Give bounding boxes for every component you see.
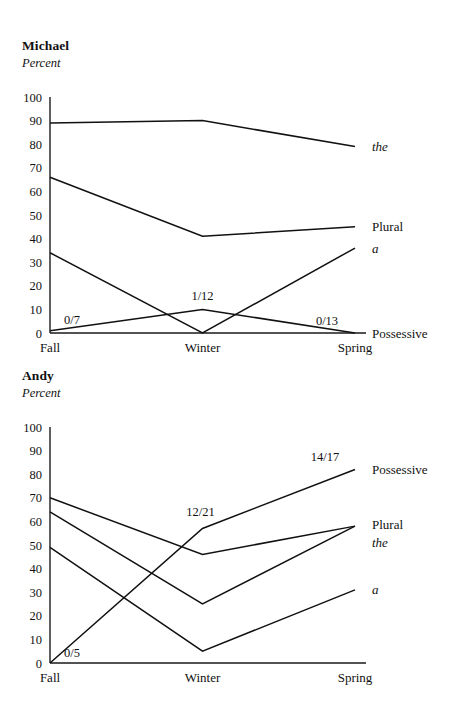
panel-subtitle-andy: Percent [22, 386, 60, 401]
point-annotation: 0/13 [316, 314, 338, 328]
series-label-the: the [372, 535, 388, 550]
point-annotation: 0/5 [64, 646, 80, 660]
y-tick-label: 80 [30, 468, 43, 482]
series-label-the: the [372, 139, 388, 154]
series-line-possessive [50, 469, 355, 663]
y-tick-label: 10 [30, 633, 43, 647]
y-tick-label: 80 [30, 138, 43, 152]
panel-subtitle-michael: Percent [22, 56, 60, 71]
series-label-plural: Plural [372, 219, 403, 234]
point-annotation: 0/7 [64, 313, 80, 327]
plot-area-michael: 0102030405060708090100FallWinterSpringth… [0, 80, 453, 360]
y-tick-label: 20 [30, 279, 43, 293]
panel-title-michael: Michael [22, 38, 69, 54]
y-tick-label: 20 [30, 609, 43, 623]
y-tick-label: 90 [30, 114, 43, 128]
x-category-label: Fall [40, 670, 61, 685]
series-line-the [50, 121, 355, 147]
y-tick-label: 30 [30, 586, 43, 600]
y-tick-label: 50 [30, 209, 43, 223]
series-label-a: a [372, 241, 379, 256]
point-annotation: 1/12 [191, 289, 213, 303]
panel-title-andy: Andy [22, 368, 54, 384]
y-tick-label: 60 [30, 515, 43, 529]
chart-panel-michael: Michael Percent 0102030405060708090100Fa… [0, 0, 453, 360]
y-tick-label: 100 [23, 91, 42, 105]
line-chart-michael: 0102030405060708090100FallWinterSpringth… [0, 80, 453, 360]
x-category-label: Winter [185, 340, 221, 355]
series-label-plural: Plural [372, 517, 403, 532]
x-category-label: Spring [338, 340, 373, 355]
y-tick-label: 100 [23, 421, 42, 435]
x-category-label: Fall [40, 340, 61, 355]
y-tick-label: 50 [30, 539, 43, 553]
y-tick-label: 40 [30, 562, 43, 576]
y-tick-label: 70 [30, 491, 43, 505]
chart-panel-andy: Andy Percent 0102030405060708090100FallW… [0, 355, 453, 720]
series-line-possessive [50, 309, 355, 333]
series-line-the [50, 512, 355, 604]
series-label-possessive: Possessive [372, 326, 428, 341]
y-tick-label: 30 [30, 256, 43, 270]
y-tick-label: 90 [30, 444, 43, 458]
series-label-possessive: Possessive [372, 462, 428, 477]
x-category-label: Winter [185, 670, 221, 685]
series-label-a: a [372, 582, 379, 597]
series-line-plural [50, 177, 355, 236]
point-annotation: 12/21 [186, 505, 214, 519]
x-category-label: Spring [338, 670, 373, 685]
series-line-a [50, 547, 355, 651]
line-chart-andy: 0102030405060708090100FallWinterSpringPo… [0, 410, 453, 700]
plot-area-andy: 0102030405060708090100FallWinterSpringPo… [0, 410, 453, 700]
y-tick-label: 10 [30, 303, 43, 317]
y-tick-label: 70 [30, 161, 43, 175]
y-tick-label: 60 [30, 185, 43, 199]
y-tick-label: 40 [30, 232, 43, 246]
y-tick-label: 0 [36, 327, 42, 341]
y-tick-label: 0 [36, 657, 42, 671]
point-annotation: 14/17 [311, 450, 339, 464]
